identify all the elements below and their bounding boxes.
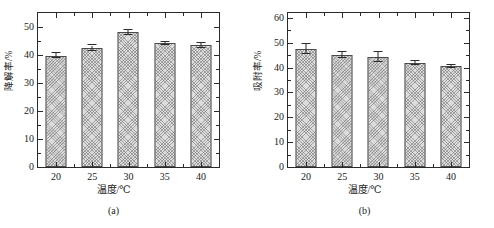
- y-tick-major-right: [214, 83, 219, 84]
- error-bar-cap-upper: [302, 43, 311, 44]
- bar: [82, 48, 103, 167]
- y-tick-major: [38, 139, 43, 140]
- x-tick-major-top: [201, 13, 202, 18]
- error-bar-cap-lower: [338, 57, 347, 58]
- x-tick-minor-top: [74, 13, 75, 16]
- error-bar-cap-upper: [196, 42, 205, 43]
- chart-panel-a: 降解率/% 010203040502025303540 温度/℃ (a): [0, 0, 247, 228]
- x-tick-major: [165, 162, 166, 167]
- y-tick-major-right: [464, 43, 469, 44]
- y-tick-minor-right: [216, 153, 219, 154]
- bar: [332, 55, 353, 167]
- y-tick-minor: [38, 153, 41, 154]
- bar-series-b: [288, 13, 469, 167]
- x-tick-major: [129, 162, 130, 167]
- x-tick-label: 20: [51, 172, 61, 182]
- error-bar-cap-upper: [124, 29, 133, 30]
- y-tick-major-right: [464, 18, 469, 19]
- x-tick-label: 35: [160, 172, 170, 182]
- x-axis-label-b: 温度/℃: [273, 185, 456, 195]
- error-bar-cap-upper: [410, 60, 419, 61]
- y-tick-minor-right: [466, 130, 469, 131]
- x-tick-major-top: [129, 13, 130, 18]
- y-tick-major-right: [464, 117, 469, 118]
- y-tick-minor-right: [466, 30, 469, 31]
- x-tick-major: [56, 162, 57, 167]
- y-tick-label: 30: [274, 87, 284, 97]
- error-bar-cap-upper: [374, 51, 383, 52]
- x-tick-major-top: [451, 13, 452, 18]
- x-tick-minor-top: [397, 13, 398, 16]
- x-tick-major: [379, 162, 380, 167]
- chart-panel-b: 吸附率/% 01020304050602025303540 温度/℃ (b): [247, 0, 494, 228]
- error-bar-cap-lower: [196, 47, 205, 48]
- y-tick-label: 40: [24, 50, 34, 60]
- x-tick-minor: [360, 164, 361, 167]
- y-tick-minor: [38, 125, 41, 126]
- y-tick-minor: [288, 30, 291, 31]
- y-tick-label: 50: [274, 38, 284, 48]
- y-tick-minor: [288, 130, 291, 131]
- y-tick-minor-right: [216, 97, 219, 98]
- bar-group: [397, 13, 433, 167]
- y-tick-major: [38, 27, 43, 28]
- x-tick-minor-top: [360, 13, 361, 16]
- x-tick-major: [201, 162, 202, 167]
- x-tick-label: 25: [87, 172, 97, 182]
- x-tick-major: [451, 162, 452, 167]
- bar: [368, 57, 389, 167]
- error-bar-cap-lower: [88, 50, 97, 51]
- figure-container: 降解率/% 010203040502025303540 温度/℃ (a) 吸附率…: [0, 0, 494, 228]
- x-tick-major-top: [306, 13, 307, 18]
- y-tick-label: 10: [24, 134, 34, 144]
- y-tick-minor: [288, 105, 291, 106]
- y-tick-major-right: [464, 92, 469, 93]
- y-tick-major: [288, 92, 293, 93]
- error-bar-cap-upper: [88, 44, 97, 45]
- y-tick-major-right: [464, 142, 469, 143]
- bar-group: [183, 13, 219, 167]
- x-tick-minor-top: [183, 13, 184, 16]
- error-bar-cap-lower: [52, 57, 61, 58]
- y-axis-label-a: 降解率/%: [5, 33, 15, 109]
- x-tick-major-top: [92, 13, 93, 18]
- x-tick-major: [415, 162, 416, 167]
- y-tick-label: 0: [279, 162, 284, 172]
- x-tick-major-top: [342, 13, 343, 18]
- error-bar-cap-lower: [446, 67, 455, 68]
- y-tick-major-right: [214, 111, 219, 112]
- x-tick-minor: [324, 164, 325, 167]
- plot-area-b: 01020304050602025303540: [287, 12, 470, 168]
- y-tick-minor: [38, 41, 41, 42]
- y-tick-label: 30: [24, 78, 34, 88]
- x-tick-minor: [147, 164, 148, 167]
- x-tick-label: 35: [410, 172, 420, 182]
- bar: [154, 43, 175, 167]
- error-bar-cap-upper: [338, 51, 347, 52]
- y-tick-label: 20: [274, 112, 284, 122]
- error-bar-cap-lower: [302, 53, 311, 54]
- y-tick-minor: [288, 80, 291, 81]
- error-bar-cap-lower: [410, 64, 419, 65]
- error-bar-cap-lower: [374, 61, 383, 62]
- y-tick-minor: [38, 97, 41, 98]
- x-tick-minor: [397, 164, 398, 167]
- error-bar-cap-upper: [446, 64, 455, 65]
- error-bar-cap-lower: [160, 44, 169, 45]
- x-tick-label: 30: [374, 172, 384, 182]
- y-tick-minor-right: [466, 155, 469, 156]
- error-bar-cap-lower: [124, 34, 133, 35]
- bar-group: [147, 13, 183, 167]
- x-tick-minor-top: [324, 13, 325, 16]
- bar-group: [110, 13, 146, 167]
- y-tick-minor: [38, 69, 41, 70]
- subcaption-a: (a): [22, 206, 205, 216]
- bar-group: [74, 13, 110, 167]
- y-tick-major-right: [214, 167, 219, 168]
- y-tick-minor-right: [216, 125, 219, 126]
- x-tick-major-top: [415, 13, 416, 18]
- bar-group: [38, 13, 74, 167]
- subcaption-b: (b): [273, 206, 456, 216]
- x-tick-major: [342, 162, 343, 167]
- x-tick-major-top: [56, 13, 57, 18]
